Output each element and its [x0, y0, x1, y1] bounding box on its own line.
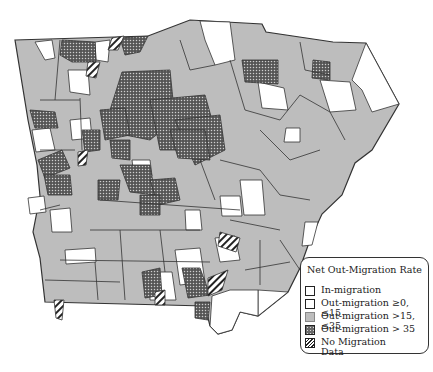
legend-item-out-35-plus: Out-migration > 35: [305, 324, 415, 335]
legend: Net Out-Migration Rate In-migration Out-…: [300, 257, 429, 354]
legend-label: In-migration: [321, 285, 381, 295]
out-35-plus-swatch-icon: [305, 325, 315, 335]
legend-item-no-data: No Migration Data: [305, 337, 386, 357]
legend-title: Net Out-Migration Rate: [301, 264, 428, 275]
legend-label-continued: Data: [321, 347, 386, 357]
legend-item-in-migration: In-migration: [305, 285, 381, 296]
out-15-35-swatch-icon: [305, 312, 315, 322]
in-migration-swatch-icon: [305, 286, 315, 296]
no-data-swatch-icon: [305, 338, 315, 348]
out-0-15-swatch-icon: [305, 299, 315, 309]
legend-label: Out-migration > 35: [321, 324, 415, 334]
